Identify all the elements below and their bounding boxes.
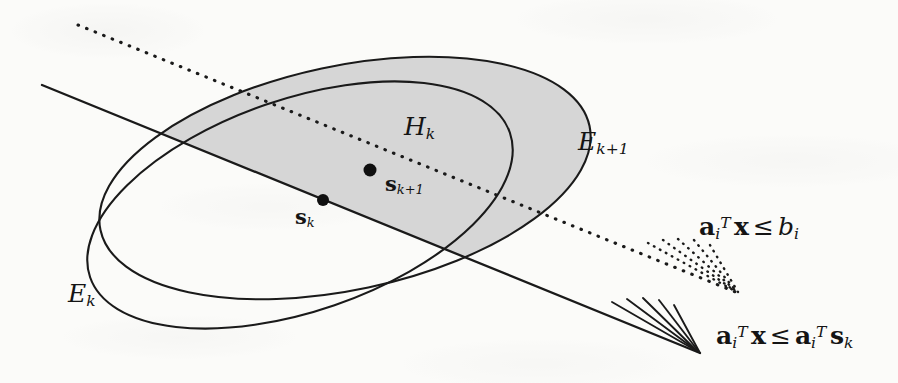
label-center-next-base: s bbox=[385, 171, 397, 196]
constraint-central-relation: ≤ bbox=[766, 321, 795, 350]
label-constraint-central-cut: aiTx≤aiTsk bbox=[716, 323, 853, 352]
constraint-central-lhs-sup: T bbox=[737, 323, 747, 341]
point-center-next bbox=[364, 164, 377, 177]
figure-ellipsoid-cut: Hk Ek+1 Ek sk+1 sk aiTx≤bi aiTx≤aiTsk bbox=[0, 0, 898, 383]
label-center-next: sk+1 bbox=[385, 173, 424, 196]
constraint-central-lhs-var: x bbox=[751, 321, 766, 350]
label-halfspace: Hk bbox=[404, 114, 435, 143]
constraint-central-lhs-vec: a bbox=[716, 321, 732, 350]
label-halfspace-base: H bbox=[404, 112, 426, 141]
constraint-central-rhs-vec: a bbox=[795, 321, 811, 350]
point-center-current bbox=[317, 194, 329, 206]
constraint-central-rhs-var: s bbox=[830, 321, 844, 350]
constraint-central-rhs-sup: T bbox=[816, 323, 826, 341]
label-ellipsoid-current-base: E bbox=[68, 279, 86, 308]
label-ellipsoid-next: Ek+1 bbox=[578, 129, 629, 158]
constraint-deep-rhs-sub: i bbox=[794, 225, 799, 243]
label-ellipsoid-current-sub: k bbox=[86, 292, 95, 310]
label-ellipsoid-next-sub: k+1 bbox=[596, 140, 628, 158]
constraint-central-rhs-var-sub: k bbox=[844, 334, 853, 352]
label-halfspace-sub: k bbox=[426, 125, 435, 143]
constraint-deep-lhs-sup: T bbox=[720, 214, 730, 232]
label-ellipsoid-next-base: E bbox=[578, 127, 596, 156]
label-constraint-deep-cut: aiTx≤bi bbox=[699, 214, 799, 243]
hatch-marks-dotted bbox=[648, 239, 738, 292]
hatch-marks-solid bbox=[612, 298, 700, 353]
label-center-current-sub: k bbox=[307, 215, 315, 230]
label-center-next-sub: k+1 bbox=[397, 182, 424, 197]
constraint-deep-lhs-vec: a bbox=[699, 212, 715, 241]
label-center-current-base: s bbox=[295, 204, 307, 229]
constraint-deep-rhs: b bbox=[778, 212, 794, 241]
constraint-deep-lhs-var: x bbox=[734, 212, 749, 241]
label-center-current: sk bbox=[295, 206, 315, 229]
label-ellipsoid-current: Ek bbox=[68, 281, 96, 310]
constraint-deep-relation: ≤ bbox=[749, 212, 778, 241]
